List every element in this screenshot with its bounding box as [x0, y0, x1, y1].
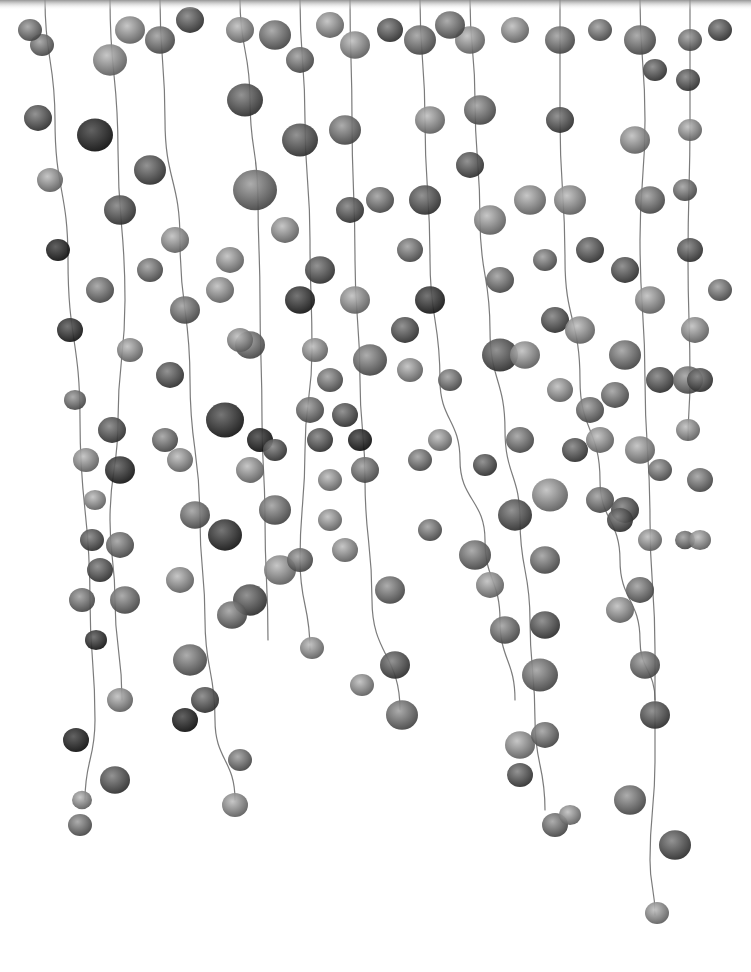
leaf-pearl [673, 179, 697, 201]
leaf-pearl [145, 26, 175, 54]
leaf-pearl [316, 12, 344, 38]
leaf-pearl [681, 317, 709, 343]
leaf-pearl [167, 448, 193, 472]
leaf-pearl [678, 119, 702, 141]
leaf-pearl [456, 152, 484, 178]
leaf-pearl [85, 630, 107, 650]
leaf-pearl [626, 577, 654, 603]
leaf-pearl [208, 519, 242, 550]
leaf-pearl [271, 217, 299, 243]
leaf-pearl [57, 318, 83, 342]
leaf-pearl [375, 576, 405, 604]
leaf-pearl [222, 793, 248, 817]
leaf-pearl [530, 546, 560, 574]
leaf-pearl [329, 115, 361, 144]
leaf-pearl [318, 509, 342, 531]
leaf-pearl [93, 44, 127, 75]
leaf-pearl [77, 118, 113, 151]
leaf-pearl [377, 18, 403, 42]
leaf-pearl [689, 530, 711, 550]
leaf-pearl [546, 107, 574, 133]
leaf-pearl [428, 429, 452, 451]
leaf-pearl [408, 449, 432, 471]
leaf-pearl [601, 382, 629, 408]
leaf-pearl [105, 456, 135, 484]
leaf-pearl [545, 26, 575, 54]
leaf-pearl [380, 651, 410, 679]
leaf-pearl [464, 95, 496, 124]
leaf-pearl [152, 428, 178, 452]
leaf-pearl [227, 328, 253, 352]
leaf-pearl [677, 238, 703, 262]
leaf-pearl [206, 403, 244, 438]
leaf-pearl [64, 390, 86, 410]
leaf-pearl [172, 708, 198, 732]
leaf-pearl [522, 658, 558, 691]
leaf-pearl [638, 529, 662, 551]
leaf-pearl [285, 286, 315, 314]
leaf-pearl [640, 701, 670, 729]
leaf-pearl [68, 814, 92, 836]
leaf-pearl [562, 438, 588, 462]
leaf-pearl [620, 126, 650, 154]
leaf-pearl [435, 11, 465, 39]
leaf-pearl [69, 588, 95, 612]
leaf-pearl [643, 59, 667, 81]
leaf-pearl [648, 459, 672, 481]
leaf-pearl [233, 170, 277, 210]
leaf-pearl [84, 490, 106, 510]
leaf-pearl [166, 567, 194, 593]
leaf-pearl [206, 277, 234, 303]
leaf-pearl [474, 205, 506, 234]
leaf-pearl [490, 616, 520, 644]
leaf-pearl [586, 427, 614, 453]
leaf-pearl [678, 29, 702, 51]
leaf-pearl [630, 651, 660, 679]
leaf-pearl [708, 279, 732, 301]
leaf-pearl [547, 378, 573, 402]
leaf-pearl [348, 429, 372, 451]
leaf-pearl [530, 611, 560, 639]
leaf-pearl [115, 16, 145, 44]
leaf-pearl [340, 286, 370, 314]
leaf-pearl [418, 519, 442, 541]
leaf-pearl [340, 31, 370, 59]
leaf-pearl [473, 454, 497, 476]
leaf-pearl [24, 105, 52, 131]
leaf-pearl [506, 427, 534, 453]
leaf-pearl [645, 902, 669, 924]
leaf-pearl [415, 106, 445, 134]
leaf-pearl [332, 538, 358, 562]
leaf-pearl [287, 548, 313, 572]
leaf-pearl [614, 785, 646, 814]
leaf-pearl [611, 257, 639, 283]
leaf-pearl [635, 286, 665, 314]
leaf-pearl [625, 436, 655, 464]
leaf-pearl [514, 185, 546, 214]
leaf-pearl [73, 448, 99, 472]
leaf-pearl [302, 338, 328, 362]
leaf-pearl [80, 529, 104, 551]
leaf-pearl [397, 238, 423, 262]
leaf-pearl [216, 247, 244, 273]
leaf-pearl [559, 805, 581, 825]
leaf-pearl [576, 237, 604, 263]
leaf-pearl [353, 344, 387, 375]
leaf-pearl [18, 19, 42, 41]
leaf-pearl [507, 763, 533, 787]
leaf-pearl [676, 419, 700, 441]
leaf-pearl [659, 830, 691, 859]
leaf-pearl [336, 197, 364, 223]
leaf-pearl [318, 469, 342, 491]
leaf-pearl [110, 586, 140, 614]
leaf-pearl [300, 637, 324, 659]
leaf-pearl [227, 83, 263, 116]
leaf-pearl [63, 728, 89, 752]
leaf-pearl [459, 540, 491, 569]
leaf-pearl [576, 397, 604, 423]
leaf-pearl [351, 457, 379, 483]
leaf-pearl [137, 258, 163, 282]
leaf-pearl [624, 25, 656, 54]
leaf-pearl [409, 185, 441, 214]
leaf-pearl [156, 362, 184, 388]
